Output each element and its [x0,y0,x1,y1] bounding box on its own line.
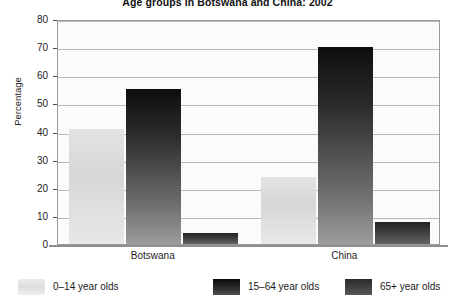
legend-item: 65+ year olds [345,279,440,295]
gridline [58,49,439,50]
legend-label: 65+ year olds [380,279,440,295]
gridline [58,21,439,22]
bar [375,222,430,245]
bar-chart: Age groups in Botswana and China: 2002 P… [0,0,455,301]
y-tick-label: 30 [14,156,48,166]
legend-label: 15–64 year olds [248,279,319,295]
y-tick-label: 20 [14,184,48,194]
x-axis-line [49,245,448,247]
legend-item: 0–14 year olds [18,279,119,295]
gridline [58,77,439,78]
y-tick-label: 50 [14,99,48,109]
chart-title: Age groups in Botswana and China: 2002 [0,0,455,8]
bar [69,129,124,244]
y-tick-label: 40 [14,128,48,138]
chart-legend: 0–14 year olds15–64 year olds65+ year ol… [0,279,455,301]
plot-area [57,20,440,245]
y-tick-label: 60 [14,71,48,81]
legend-label: 0–14 year olds [53,279,119,295]
legend-swatch-icon [345,279,372,295]
x-axis-group-label: Botswana [57,250,249,261]
legend-swatch-icon [18,279,45,295]
y-tick-label: 10 [14,212,48,222]
bar [126,89,181,244]
bar [318,47,373,244]
y-tick-label: 80 [14,15,48,25]
y-tick-label: 70 [14,43,48,53]
legend-item: 15–64 year olds [213,279,319,295]
bar [183,233,238,244]
bar [261,177,316,245]
gridline [58,105,439,106]
y-tick-label: 0 [14,240,48,250]
legend-swatch-icon [213,279,240,295]
x-axis-group-label: China [249,250,441,261]
